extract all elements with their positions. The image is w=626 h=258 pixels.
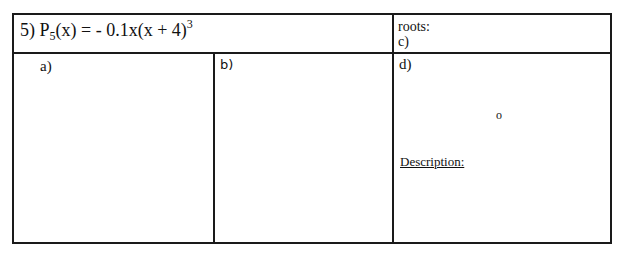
roots-label: roots:: [398, 19, 430, 34]
description-label: Description:: [400, 154, 464, 170]
origin-label: o: [496, 108, 502, 123]
part-d-label: d): [399, 56, 412, 73]
column-divider-ab: [213, 52, 215, 242]
header-divider: [14, 52, 610, 54]
part-c-label: c): [398, 34, 430, 49]
problem-title: 5) P5(x) = - 0.1x(x + 4)3: [20, 17, 193, 44]
part-a-label: a): [40, 58, 52, 75]
column-divider-bd: [392, 15, 394, 242]
part-b-label: b): [220, 57, 233, 72]
worksheet-table: 5) P5(x) = - 0.1x(x + 4)3 roots: c) a) b…: [12, 13, 612, 244]
roots-cell: roots: c): [398, 19, 430, 49]
